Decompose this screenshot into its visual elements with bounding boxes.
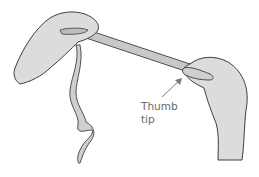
annotation-arrow (162, 80, 180, 97)
ribbon-illustration (0, 0, 259, 177)
annotation-label-line2: tip (141, 113, 155, 125)
hanging-ribbon (70, 45, 94, 163)
annotation-label-line1: Thumb (141, 100, 178, 112)
left-hand (14, 12, 98, 84)
